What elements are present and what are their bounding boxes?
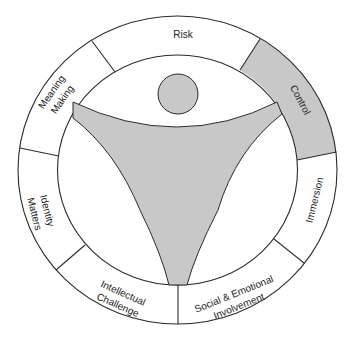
divider-immersion-social [274, 239, 304, 263]
divider-identity-meaning [20, 148, 59, 156]
label-social-emotional-involvement: Social & Emotional Involvement [193, 273, 280, 327]
svg-text:Risk: Risk [173, 29, 193, 40]
divider-intellectual-identity [56, 245, 85, 270]
engagement-wheel-diagram: Risk Control Immersion Social & Emotiona… [0, 0, 350, 338]
label-meaning-making: Meaning Making [36, 73, 78, 118]
segment-control-shade [240, 39, 336, 160]
person-body-shape [73, 102, 282, 285]
label-identity-matters: Identity Matters [25, 193, 56, 231]
label-risk: Risk [173, 29, 193, 40]
svg-text:Immersion: Immersion [304, 176, 326, 224]
person-head-circle [158, 74, 198, 114]
label-immersion: Immersion [304, 176, 326, 224]
divider-meaning-risk [92, 41, 115, 72]
